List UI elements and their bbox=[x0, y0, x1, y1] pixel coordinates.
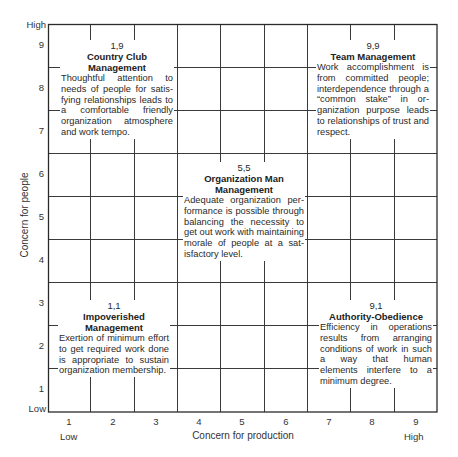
x-tick-4: 4 bbox=[189, 416, 209, 427]
style-title: Impoverished bbox=[59, 311, 169, 322]
x-tick-3: 3 bbox=[146, 416, 166, 427]
style-title: Country Club bbox=[61, 51, 173, 62]
style-title: Authority-Obedience bbox=[320, 311, 432, 322]
x-axis-high-label: High bbox=[404, 431, 424, 442]
x-tick-7: 7 bbox=[319, 416, 339, 427]
style-title: Management bbox=[61, 62, 173, 73]
style-box-country-club: 1,9 Country Club Management Thoughtful a… bbox=[60, 40, 174, 139]
x-axis-title: Concern for production bbox=[192, 430, 294, 441]
style-title: Management bbox=[59, 322, 169, 333]
y-axis-low-label: Low bbox=[20, 403, 46, 414]
y-tick-9: 9 bbox=[24, 39, 44, 50]
style-description: Work accomplishment is from committed pe… bbox=[317, 62, 429, 138]
y-tick-1: 1 bbox=[24, 383, 44, 394]
style-coord: 9,9 bbox=[317, 40, 429, 51]
style-coord: 1,1 bbox=[59, 300, 169, 311]
x-tick-8: 8 bbox=[362, 416, 382, 427]
x-axis-low-label: Low bbox=[60, 431, 77, 442]
style-title: Team Management bbox=[317, 51, 429, 62]
style-box-organization-man: 5,5 Organization Man Management Adequate… bbox=[183, 162, 305, 261]
style-title: Organization Man bbox=[184, 173, 304, 184]
style-box-authority-obedience: 9,1 Authority-Obedience Efficiency in op… bbox=[319, 300, 433, 388]
style-description: Adequate organization per­formance is po… bbox=[184, 195, 304, 260]
y-axis-high-label: High bbox=[22, 19, 46, 30]
y-tick-2: 2 bbox=[24, 340, 44, 351]
style-box-team: 9,9 Team Management Work accomplishment … bbox=[316, 40, 430, 139]
style-description: Thoughtful attention to needs of people … bbox=[61, 73, 173, 138]
x-tick-2: 2 bbox=[103, 416, 123, 427]
x-tick-5: 5 bbox=[232, 416, 252, 427]
x-tick-6: 6 bbox=[276, 416, 296, 427]
style-coord: 5,5 bbox=[184, 162, 304, 173]
style-coord: 9,1 bbox=[320, 300, 432, 311]
style-description: Efficiency in operations results from ar… bbox=[320, 322, 432, 387]
y-tick-8: 8 bbox=[24, 82, 44, 93]
y-tick-7: 7 bbox=[24, 125, 44, 136]
x-tick-1: 1 bbox=[59, 416, 79, 427]
x-tick-9: 9 bbox=[406, 416, 426, 427]
style-box-impoverished: 1,1 Impoverished Management Exertion of … bbox=[58, 300, 170, 377]
y-tick-3: 3 bbox=[24, 297, 44, 308]
style-title: Management bbox=[184, 184, 304, 195]
style-coord: 1,9 bbox=[61, 40, 173, 51]
y-axis-title: Concern for people bbox=[19, 172, 30, 257]
style-description: Exertion of minimum ef­fort to get requi… bbox=[59, 333, 169, 376]
